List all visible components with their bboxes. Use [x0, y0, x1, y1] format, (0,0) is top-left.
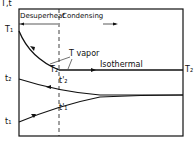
label-isothermal: Isothermal [100, 61, 143, 69]
label-T2-mid: T₂ [50, 66, 58, 74]
region-condensing: Condensing [62, 13, 103, 20]
label-t2-prime: t'₂ [59, 77, 68, 85]
label-t2: t₂ [5, 75, 11, 83]
axis-label: T,t [1, 0, 12, 8]
diagram-graphics [0, 0, 195, 142]
label-T2-right: T₂ [185, 66, 193, 74]
coolant-t2-curve [19, 79, 183, 95]
region-desuperheat: Desuperheat [20, 13, 65, 20]
plot-frame [19, 9, 183, 136]
label-T1: T₁ [5, 26, 13, 34]
coolant-t1-curve [19, 95, 183, 122]
label-t1: t₁ [5, 118, 11, 126]
label-t1-prime: t'₁ [59, 104, 68, 112]
label-t-vapor: T vapor [69, 50, 99, 58]
heat-exchanger-temperature-diagram: T,t Desuperheat Condensing T₁ T vapor T₂… [0, 0, 195, 142]
